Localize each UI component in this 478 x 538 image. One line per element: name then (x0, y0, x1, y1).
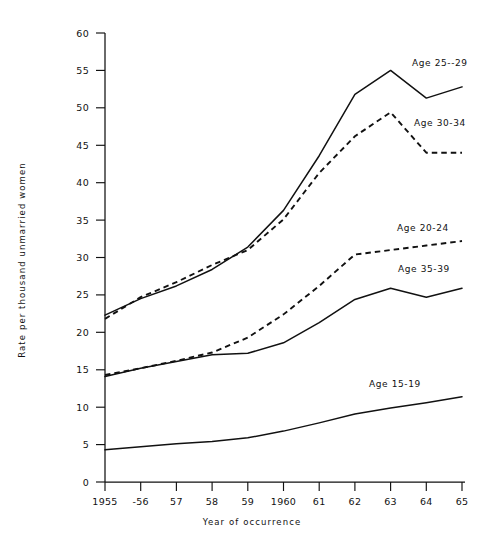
y-tick-label-25: 25 (76, 289, 89, 300)
series-layer (105, 70, 462, 449)
y-tick-label-10: 10 (76, 402, 89, 413)
x-tick-label-1963: 63 (384, 496, 397, 507)
y-tick-label-20: 20 (76, 327, 89, 338)
x-tick-label-1964: 64 (420, 496, 433, 507)
x-axis: 1955 -56 57 58 59 1960 61 62 63 64 65 Ye… (92, 482, 468, 527)
series-label-age-35-39: Age 35-39 (398, 264, 450, 274)
x-tick-label-1956: -56 (132, 496, 148, 507)
y-axis-title: Rate per thousand unmarried women (17, 162, 27, 358)
series-label-age-30-34: Age 30-34 (414, 118, 466, 128)
y-axis: 0 5 10 15 20 25 30 35 40 45 50 55 60 Rat… (17, 28, 105, 488)
y-tick-label-0: 0 (83, 477, 89, 488)
y-tick-label-55: 55 (76, 65, 89, 76)
x-axis-title: Year of occurrence (202, 517, 302, 527)
y-tick-label-60: 60 (76, 28, 89, 39)
series-line-age-30-34 (105, 112, 462, 319)
series-label-age-25-29: Age 25--29 (412, 58, 468, 68)
x-tick-label-1957: 57 (170, 496, 183, 507)
series-line-age-15-19 (105, 397, 462, 450)
y-tick-label-45: 45 (76, 140, 89, 151)
y-tick-label-30: 30 (76, 252, 89, 263)
y-axis-tick-labels: 0 5 10 15 20 25 30 35 40 45 50 55 60 (76, 28, 89, 488)
series-line-age-20-24 (105, 241, 462, 375)
y-axis-ticks (96, 33, 105, 482)
series-line-age-25-29 (105, 70, 462, 315)
x-tick-label-1959: 59 (241, 496, 254, 507)
series-labels: Age 25--29 Age 30-34 Age 20-24 Age 35-39… (369, 58, 468, 389)
y-tick-label-40: 40 (76, 177, 89, 188)
y-tick-label-35: 35 (76, 215, 89, 226)
y-tick-label-15: 15 (76, 364, 89, 375)
x-tick-label-1962: 62 (349, 496, 362, 507)
y-tick-label-50: 50 (76, 102, 89, 113)
x-tick-label-1955: 1955 (92, 496, 117, 507)
x-tick-label-1965: 65 (456, 496, 469, 507)
line-chart-svg: 0 5 10 15 20 25 30 35 40 45 50 55 60 Rat… (0, 0, 478, 538)
series-line-age-35-39 (105, 288, 462, 376)
y-tick-label-5: 5 (83, 439, 89, 450)
series-label-age-20-24: Age 20-24 (397, 223, 449, 233)
x-axis-tick-labels: 1955 -56 57 58 59 1960 61 62 63 64 65 (92, 496, 468, 507)
x-tick-label-1958: 58 (206, 496, 219, 507)
chart-container: 0 5 10 15 20 25 30 35 40 45 50 55 60 Rat… (0, 0, 478, 538)
x-axis-ticks (105, 482, 462, 491)
x-tick-label-1961: 61 (313, 496, 326, 507)
x-tick-label-1960: 1960 (271, 496, 296, 507)
series-label-age-15-19: Age 15-19 (369, 379, 421, 389)
